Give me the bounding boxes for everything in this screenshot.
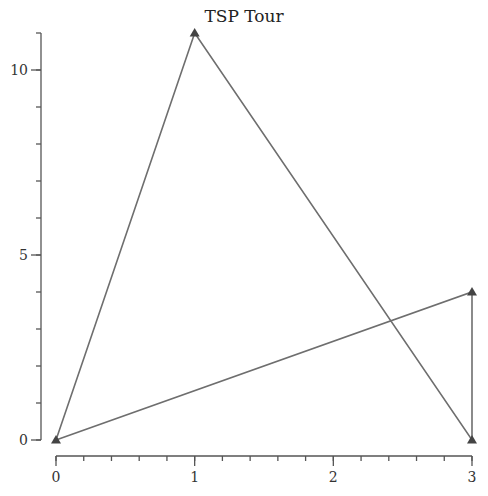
chart-title: TSP Tour (204, 6, 284, 26)
x-tick-label: 0 (52, 469, 61, 485)
y-axis: 0510 (10, 33, 41, 448)
tour-path (56, 33, 472, 440)
x-tick-label: 2 (329, 469, 338, 485)
city-marker-triangle-icon (190, 28, 200, 37)
y-tick-label: 5 (19, 247, 28, 263)
city-markers (51, 28, 477, 444)
tsp-tour-chart: TSP Tour 0510 0123 (0, 0, 488, 496)
city-marker-triangle-icon (467, 287, 477, 296)
y-tick-label: 0 (19, 432, 28, 448)
x-axis: 0123 (52, 456, 477, 485)
tour-series (56, 33, 472, 440)
x-tick-label: 3 (468, 469, 477, 485)
y-tick-label: 10 (10, 62, 28, 78)
x-tick-label: 1 (190, 469, 199, 485)
